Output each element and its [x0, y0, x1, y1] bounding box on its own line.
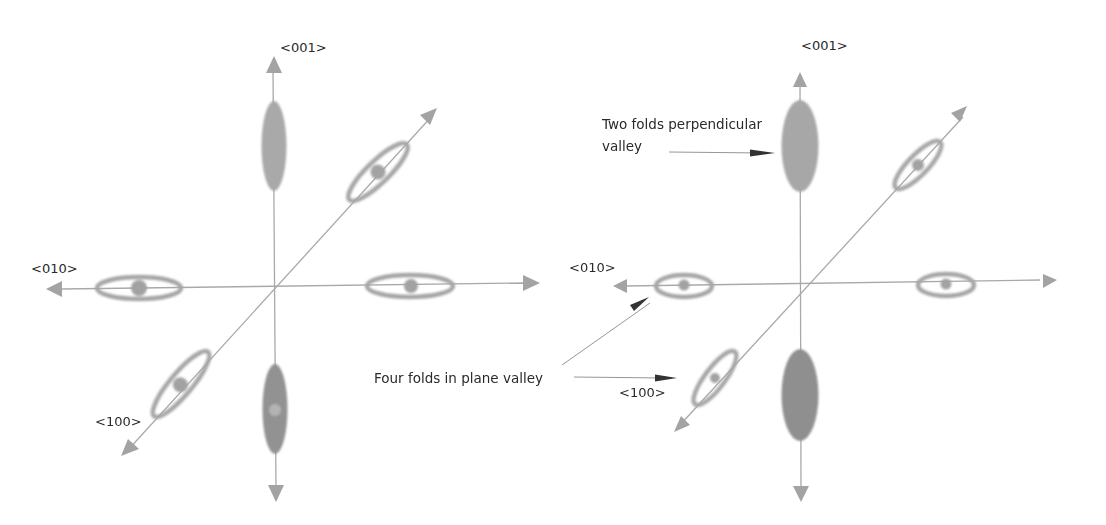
- arrow-left-icon: [613, 279, 627, 293]
- valley-ellipse-bottom: [782, 349, 819, 441]
- left-label-010: <010>: [31, 261, 78, 277]
- left-label-100: <100>: [95, 414, 142, 430]
- valley-ellipse-top: [262, 101, 287, 191]
- pointer-in-plane-lower: [574, 375, 677, 382]
- valley-ring-downleft: [146, 345, 217, 423]
- valley-ring-downleft: [687, 346, 743, 411]
- arrow-up-icon: [266, 56, 282, 73]
- pointer-arrowhead-icon: [655, 375, 677, 382]
- arrow-right-icon: [523, 275, 540, 291]
- arrow-down-icon: [793, 486, 809, 502]
- valley-diagram: [0, 0, 1106, 525]
- annotation-perpendicular-line2: valley: [602, 135, 762, 157]
- arrow-up-icon: [793, 72, 807, 87]
- valley-ring-right: [367, 275, 453, 297]
- valley-ellipse-top: [782, 100, 819, 192]
- annotation-in-plane-valley: Four folds in plane valley: [374, 367, 543, 389]
- arrow-right-icon: [1043, 274, 1057, 288]
- annotation-perpendicular-valley: Two folds perpendicular valley: [602, 113, 762, 157]
- arrow-upright-icon: [951, 106, 967, 122]
- arrow-left-icon: [46, 281, 62, 297]
- right-label-001: <001>: [801, 38, 848, 54]
- pointer-in-plane-upper: [562, 297, 650, 365]
- right-label-100: <100>: [619, 385, 666, 401]
- left-label-001: <001>: [280, 40, 327, 56]
- annotation-perpendicular-line1: Two folds perpendicular: [602, 113, 762, 135]
- pointer-arrowhead-icon: [630, 297, 649, 311]
- arrow-upright-icon: [420, 108, 437, 125]
- arrow-downleft-icon: [674, 416, 690, 432]
- right-label-010: <010>: [569, 260, 616, 276]
- valley-ring-right: [918, 274, 974, 296]
- valley-center-dot: [269, 404, 281, 416]
- left-panel: [46, 56, 540, 502]
- arrow-down-icon: [268, 485, 284, 502]
